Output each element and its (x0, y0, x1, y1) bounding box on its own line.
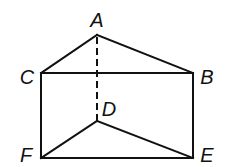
edge-DF (41, 121, 97, 158)
vertex-label-b: B (200, 66, 213, 88)
prism-diagram: A B C D E F (0, 0, 225, 167)
edge-AC (41, 35, 97, 73)
vertex-label-c: C (20, 66, 35, 88)
vertex-label-e: E (200, 144, 214, 166)
vertex-label-a: A (89, 9, 103, 31)
edge-DE (97, 121, 193, 158)
vertex-label-d: D (102, 98, 116, 120)
vertex-label-f: F (20, 144, 34, 166)
edge-AB (97, 35, 193, 73)
